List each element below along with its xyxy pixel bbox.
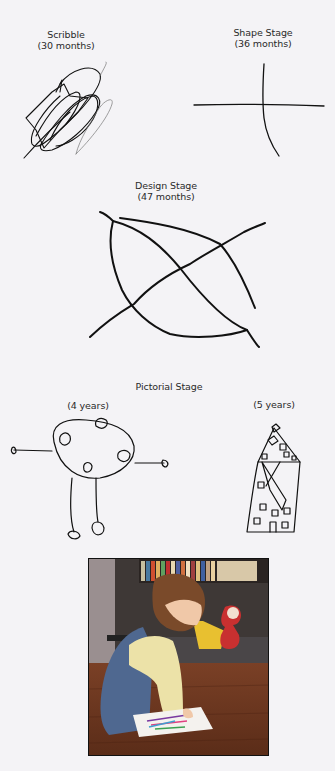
child-drawings — [0, 0, 335, 560]
design-stage-drawing — [90, 212, 265, 347]
person-drawing — [11, 418, 167, 538]
house-drawing — [247, 424, 300, 532]
scribble-drawing — [24, 62, 112, 158]
toddler-drawing-photo — [88, 558, 269, 756]
shape-stage-drawing — [194, 64, 324, 156]
photo-illustration — [89, 559, 269, 756]
